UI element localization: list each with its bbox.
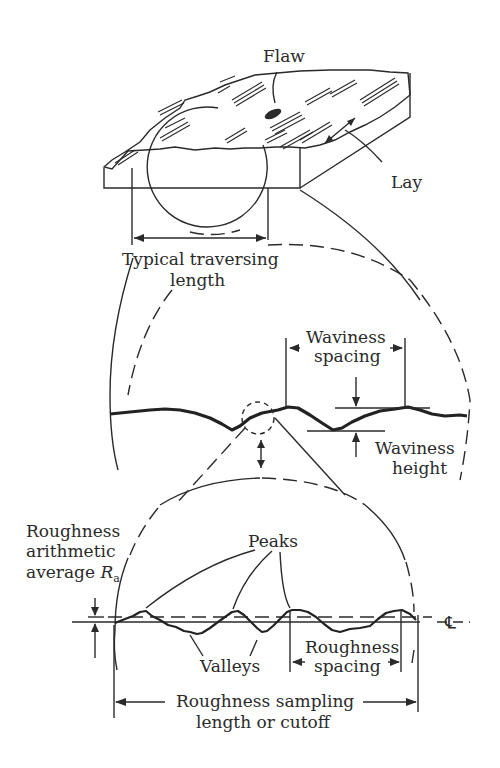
waviness-profile	[110, 407, 467, 430]
traversing-label-line2: length	[170, 270, 225, 290]
ra-label-line3: average Ra	[26, 562, 120, 585]
roughness-spacing-label-2: spacing	[314, 656, 381, 676]
valleys-leaders	[190, 635, 257, 656]
ra-dimension	[88, 598, 104, 658]
peaks-label: Peaks	[248, 531, 298, 551]
waviness-height-label-1: Waviness	[375, 438, 455, 458]
lay-label: Lay	[391, 172, 422, 192]
ra-label-line1: Roughness	[26, 521, 120, 541]
waviness-spacing-label-1: Waviness	[306, 327, 386, 347]
surface-block	[104, 70, 410, 235]
flaw-mark	[263, 107, 283, 122]
traversing-label-line1: Typical traversing	[122, 249, 279, 269]
peaks-leaders	[146, 550, 290, 609]
flaw-label: Flaw	[263, 46, 305, 66]
waviness-magnifier	[110, 190, 470, 480]
waviness-height-label-2: height	[392, 458, 447, 478]
sampling-label-line2: length or cutoff	[196, 712, 332, 732]
roughness-spacing-label-1: Roughness	[305, 637, 399, 657]
surface-texture-diagram: Flaw Lay Typical traversing length Wavin…	[0, 0, 500, 768]
sampling-label-line1: Roughness sampling	[176, 691, 354, 711]
valleys-label: Valleys	[199, 656, 260, 676]
centerline-symbol: ℄	[444, 612, 456, 632]
waviness-spacing-label-2: spacing	[314, 346, 381, 366]
ra-label-line2: arithmetic	[26, 541, 115, 561]
magnify-circle-small	[242, 402, 274, 434]
